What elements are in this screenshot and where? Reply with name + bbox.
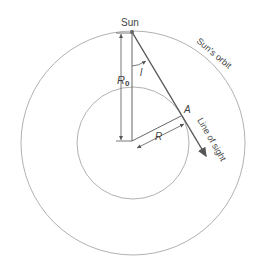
angle-label: l — [140, 67, 143, 78]
line-of-sight — [132, 32, 206, 156]
inner-circle — [77, 87, 189, 199]
line-of-sight-label: Line of sight — [195, 116, 228, 163]
sun-label: Sun — [121, 17, 139, 28]
angle-arc — [132, 61, 146, 66]
galactic-rotation-diagram: Sun R0 l A R Line of sight Sun's orbit — [0, 0, 257, 267]
r0-label: R0 — [117, 74, 130, 88]
point-a-label: A — [183, 104, 191, 115]
radius-label: R — [155, 131, 162, 142]
sun-dot — [130, 30, 134, 34]
